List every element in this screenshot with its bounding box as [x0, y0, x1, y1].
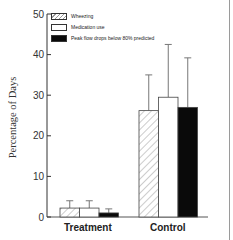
- bar-treatment-0: [60, 208, 80, 217]
- right-border-line: [229, 0, 230, 240]
- legend-label: Medication use: [71, 24, 105, 30]
- y-tick-label: 30: [33, 90, 45, 101]
- legend-item-peak-flow: Peak flow drops below 80% predicted: [51, 33, 154, 43]
- y-tick-label: 50: [33, 9, 45, 20]
- bar-treatment-2: [99, 213, 119, 217]
- legend-label: Peak flow drops below 80% predicted: [71, 35, 154, 41]
- y-tick-label: 10: [33, 171, 45, 182]
- y-tick-label: 0: [38, 212, 44, 223]
- legend-item-medication: Medication use: [51, 22, 154, 32]
- white-swatch-icon: [51, 24, 67, 31]
- y-tick-label: 40: [33, 49, 45, 60]
- legend: Wheezing Medication use Peak flow drops …: [51, 11, 154, 44]
- black-swatch-icon: [51, 35, 67, 42]
- bar-control-2: [178, 107, 198, 217]
- x-tick-label-treatment: Treatment: [64, 222, 112, 233]
- legend-label: Wheezing: [71, 13, 93, 19]
- bar-treatment-1: [80, 208, 100, 217]
- y-tick-label: 20: [33, 130, 45, 141]
- bar-control-0: [139, 111, 159, 217]
- legend-item-wheezing: Wheezing: [51, 11, 154, 21]
- x-tick-label-control: Control: [150, 222, 186, 233]
- bar-control-1: [159, 97, 179, 217]
- hatched-swatch-icon: [51, 13, 67, 20]
- y-axis-label: Percentage of Days: [7, 68, 18, 168]
- bar-chart: 01020304050 Percentage of Days Wheezing …: [0, 0, 233, 240]
